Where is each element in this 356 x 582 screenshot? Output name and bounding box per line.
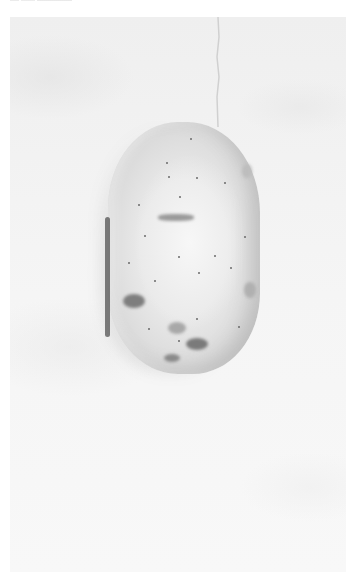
blemish — [242, 164, 252, 178]
blemish — [168, 322, 186, 334]
potato-eye — [144, 235, 146, 237]
potato-eye — [230, 267, 232, 269]
potato-eye — [178, 340, 180, 342]
blemish — [186, 338, 208, 350]
potato-eye — [214, 255, 216, 257]
potato-eye — [148, 328, 150, 330]
potato-eye — [168, 176, 170, 178]
potato-eye — [128, 262, 130, 264]
potato-eye — [198, 272, 200, 274]
potato-eye — [224, 182, 226, 184]
potato-eye — [238, 326, 240, 328]
blemish — [244, 282, 256, 298]
potato-eye — [179, 196, 181, 198]
potato-eye — [244, 236, 246, 238]
blemish — [123, 294, 145, 308]
potato-eye — [138, 204, 140, 206]
blemish — [158, 214, 194, 221]
potato-eye — [190, 138, 192, 140]
potato-eye — [196, 177, 198, 179]
potato-eye — [196, 318, 198, 320]
potato-eye — [154, 280, 156, 282]
potato-eye — [178, 256, 180, 258]
potato — [108, 122, 260, 374]
potato-eye — [166, 162, 168, 164]
surface-crack — [215, 17, 221, 127]
potato-photo — [10, 17, 346, 572]
potato-dark-edge — [105, 217, 110, 337]
blemish — [164, 354, 180, 362]
cropped-text-fragment — [10, 0, 72, 3]
